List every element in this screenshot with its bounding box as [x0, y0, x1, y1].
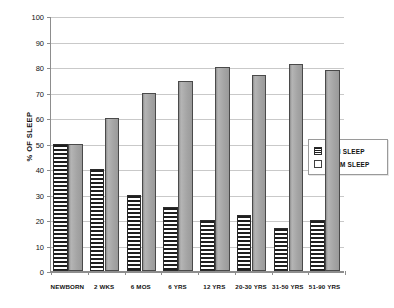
y-axis-tick-label: 100 [31, 13, 44, 22]
bar-rem [200, 220, 215, 271]
bar-nrem [215, 67, 230, 271]
x-axis-category-label: 31-50 YRS [272, 283, 304, 290]
x-axis-category-label: NEWBORN [51, 283, 85, 290]
y-axis-tick-label: 10 [36, 242, 44, 251]
x-axis-tick [235, 271, 236, 275]
x-axis-tick [308, 271, 309, 275]
bar-nrem [325, 70, 340, 271]
y-axis-tick-label: 40 [36, 166, 44, 175]
y-axis-title: % OF SLEEP [25, 92, 34, 182]
bar-nrem [142, 93, 157, 272]
x-axis-category-label: 12 YRS [203, 283, 225, 290]
bar-rem [274, 228, 289, 271]
bar-rem [53, 144, 68, 272]
x-axis-tick [88, 271, 89, 275]
rem-swatch-icon [314, 147, 322, 155]
y-axis-tick-label: 20 [36, 217, 44, 226]
x-axis-category-label: 2 WKS [94, 283, 114, 290]
bar-nrem [289, 64, 304, 271]
y-axis-tick-label: 70 [36, 89, 44, 98]
nrem-swatch-icon [314, 160, 322, 168]
bar-rem [127, 195, 142, 272]
x-axis-tick [125, 271, 126, 275]
legend-item-rem: REM SLEEP [314, 147, 383, 155]
x-axis-category-label: 20-30 YRS [235, 283, 267, 290]
bars-layer [51, 17, 344, 271]
chart-legend: REM SLEEPNREM SLEEP [308, 139, 388, 175]
y-axis-tick-label: 80 [36, 64, 44, 73]
y-axis-tick-label: 30 [36, 191, 44, 200]
y-axis-tick-label: 90 [36, 38, 44, 47]
bar-nrem [252, 75, 267, 271]
y-axis-tick-label: 0 [40, 268, 44, 277]
x-axis-tick [161, 271, 162, 275]
x-axis-tick [51, 271, 52, 275]
sleep-stages-bar-chart: % OF SLEEP 0102030405060708090100 NEWBOR… [0, 0, 394, 308]
legend-item-nrem: NREM SLEEP [314, 160, 383, 168]
bar-rem [90, 169, 105, 271]
x-axis-tick [345, 271, 346, 275]
bar-rem [163, 207, 178, 271]
bar-rem [237, 215, 252, 271]
x-axis-category-label: 6 MOS [131, 283, 151, 290]
x-axis-tick [198, 271, 199, 275]
x-axis-tick [272, 271, 273, 275]
bar-nrem [178, 81, 193, 271]
bar-nrem [105, 118, 120, 271]
bar-nrem [68, 144, 83, 272]
x-axis-category-label: 6 YRS [168, 283, 187, 290]
plot-area: 0102030405060708090100 [50, 17, 344, 272]
y-axis-tick-label: 50 [36, 140, 44, 149]
bar-rem [310, 220, 325, 271]
y-axis-tick-label: 60 [36, 115, 44, 124]
x-axis-category-label: 51-90 YRS [309, 283, 341, 290]
